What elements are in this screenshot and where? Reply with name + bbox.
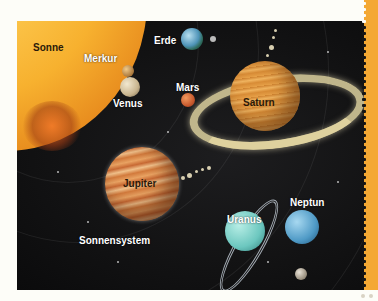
perforation-notch	[362, 194, 366, 197]
perforation-notch	[362, 14, 366, 17]
perforation-notch	[362, 98, 366, 101]
label-mars: Mars	[176, 82, 199, 93]
moon	[201, 168, 204, 171]
label-saturn: Saturn	[243, 97, 275, 108]
star	[337, 181, 339, 183]
perforation-notch	[362, 140, 366, 143]
label-neptune: Neptun	[290, 197, 324, 208]
perforation-notch	[362, 164, 366, 167]
perforation-notch	[362, 116, 366, 119]
perforation-notch	[362, 152, 366, 155]
perforation-notch	[362, 44, 366, 47]
perforation-notch	[362, 170, 366, 173]
moon	[187, 173, 192, 178]
perforation-notch	[362, 254, 366, 257]
perforation-notch	[362, 2, 366, 5]
perforation-notch	[362, 134, 366, 137]
moon	[210, 36, 216, 42]
illustration-title: Sonnensystem	[79, 235, 150, 246]
label-jupiter: Jupiter	[123, 178, 156, 189]
planet-earth	[181, 28, 203, 50]
decorative-dot	[361, 294, 365, 298]
solar-system-illustration: Sonne Merkur Venus Erde Mars Saturn Jupi…	[17, 21, 364, 290]
perforation-notch	[362, 92, 366, 95]
star	[117, 261, 119, 263]
perforation-notch	[362, 272, 366, 275]
planet-pluto	[295, 268, 307, 280]
perforation-notch	[362, 68, 366, 71]
solar-flare	[22, 101, 82, 151]
perforation-notch	[362, 188, 366, 191]
moon	[266, 54, 269, 57]
perforation-notch	[362, 230, 366, 233]
planet-mars	[181, 93, 195, 107]
perforation-notch	[362, 62, 366, 65]
perforation-notch	[362, 176, 366, 179]
perforation-notch	[362, 50, 366, 53]
perforation-notch	[362, 284, 366, 287]
perforation-notch	[362, 260, 366, 263]
label-earth: Erde	[154, 35, 176, 46]
moon	[274, 29, 277, 32]
perforation-notch	[362, 218, 366, 221]
label-mercury: Merkur	[84, 53, 117, 64]
planet-mercury	[122, 65, 134, 77]
planet-neptune	[285, 210, 319, 244]
star	[327, 51, 329, 53]
perforation-notch	[362, 248, 366, 251]
label-venus: Venus	[113, 98, 142, 109]
decorative-dot	[369, 294, 373, 298]
label-uranus: Uranus	[227, 214, 261, 225]
perforation-notch	[362, 8, 366, 11]
orange-stamp-strip	[364, 0, 378, 290]
perforation-notch	[362, 266, 366, 269]
perforation-notch	[362, 122, 366, 125]
perforation-notch	[362, 224, 366, 227]
planet-venus	[120, 77, 140, 97]
perforation-notch	[362, 32, 366, 35]
perforation-notch	[362, 128, 366, 131]
perforation-notch	[362, 26, 366, 29]
perforation-notch	[362, 38, 366, 41]
perforation-notch	[362, 200, 366, 203]
perforation-notch	[362, 110, 366, 113]
perforation-notch	[362, 158, 366, 161]
star	[267, 261, 269, 263]
perforation-notch	[362, 86, 366, 89]
label-sun: Sonne	[33, 42, 64, 53]
perforation-notch	[362, 242, 366, 245]
perforation-notch	[362, 182, 366, 185]
star	[167, 131, 169, 133]
moon	[195, 170, 198, 173]
perforation-notch	[362, 20, 366, 23]
perforation-notch	[362, 206, 366, 209]
perforation-notch	[362, 80, 366, 83]
moon	[269, 45, 274, 50]
moon	[272, 36, 275, 39]
perforation-notch	[362, 104, 366, 107]
perforation-notch	[362, 236, 366, 239]
perforation-notch	[362, 56, 366, 59]
perforation-notch	[362, 146, 366, 149]
moon	[207, 166, 211, 170]
perforation-notch	[362, 74, 366, 77]
star	[57, 171, 59, 173]
perforation-notch	[362, 212, 366, 215]
moon	[181, 176, 185, 180]
star	[87, 221, 89, 223]
perforation-notch	[362, 278, 366, 281]
